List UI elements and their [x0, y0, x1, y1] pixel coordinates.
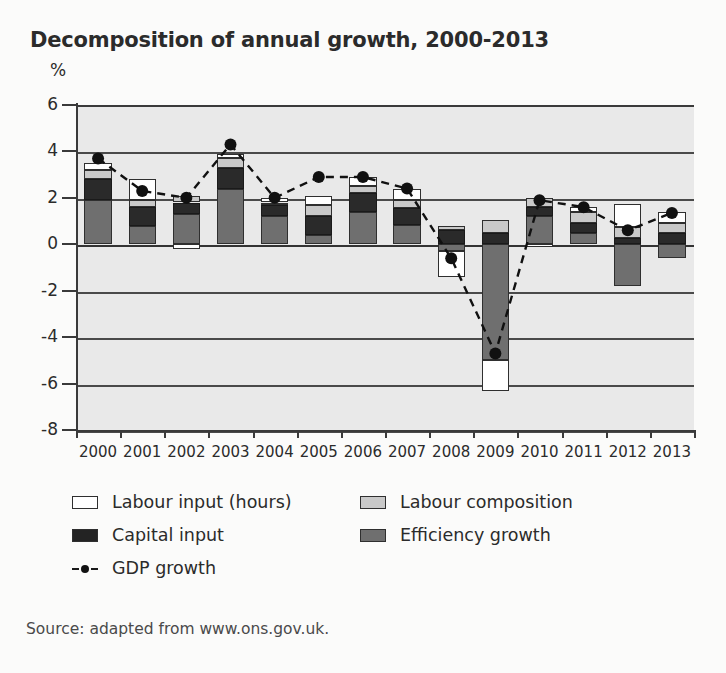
bar-segment-2013-labour-input-hours [658, 212, 685, 224]
bar-segment-2013-labour-composition [658, 223, 685, 232]
bar-segment-2003-labour-input-hours [217, 154, 244, 159]
bar-segment-2011-capital-input [570, 223, 597, 232]
x-tick-label-2004: 2004 [253, 443, 297, 461]
bar-segment-2012-capital-input [614, 238, 641, 244]
x-tick-label-2000: 2000 [76, 443, 120, 461]
chart-figure: Decomposition of annual growth, 2000-201… [0, 0, 726, 673]
bar-segment-2012-labour-composition [614, 227, 641, 239]
legend-item-efficiency-growth[interactable]: Efficiency growth [360, 525, 551, 545]
legend-item-capital-input[interactable]: Capital input [72, 525, 224, 545]
legend-label-capital-input: Capital input [112, 525, 224, 545]
bar-segment-2007-labour-input-hours [393, 189, 420, 201]
legend-label-labour-input-hours: Labour input (hours) [112, 492, 292, 512]
y-tick--8 [62, 429, 76, 431]
bar-segment-2004-efficiency-growth [261, 216, 288, 244]
bar-segment-2011-efficiency-growth [570, 233, 597, 245]
x-tick-label-2001: 2001 [120, 443, 164, 461]
bar-segment-2013-efficiency-growth [658, 244, 685, 258]
y-tick-4 [62, 150, 76, 152]
bar-segment-2003-efficiency-growth [217, 189, 244, 245]
y-tick-label-0: 0 [22, 233, 58, 253]
y-tick--2 [62, 290, 76, 292]
bar-segment-2005-labour-input-hours [305, 196, 332, 205]
bar-segment-2002-labour-composition [173, 196, 200, 203]
bar-segment-2005-labour-composition [305, 205, 332, 217]
x-tick-label-2008: 2008 [429, 443, 473, 461]
legend-row-1: Labour input (hours) Labour composition [72, 492, 692, 525]
x-tick-label-2011: 2011 [562, 443, 606, 461]
x-tick-2002 [164, 430, 166, 438]
x-tick-label-2005: 2005 [297, 443, 341, 461]
y-tick-label-6: 6 [22, 94, 58, 114]
source-note: Source: adapted from www.ons.gov.uk. [26, 620, 329, 638]
y-tick-label--6: -6 [22, 373, 58, 393]
x-tick-label-2003: 2003 [208, 443, 252, 461]
x-tick-2012 [606, 430, 608, 438]
bar-segment-2007-capital-input [393, 208, 420, 224]
bar-segment-2002-capital-input [173, 203, 200, 215]
y-tick--4 [62, 336, 76, 338]
x-tick-label-2009: 2009 [473, 443, 517, 461]
x-tick-2003 [208, 430, 210, 438]
bar-segment-2006-efficiency-growth [349, 212, 376, 245]
chart-legend: Labour input (hours) Labour composition … [72, 492, 692, 591]
bar-segment-2002-efficiency-growth [173, 214, 200, 244]
bar-segment-2007-efficiency-growth [393, 225, 420, 245]
bar-segment-2001-capital-input [129, 207, 156, 226]
y-tick-label-2: 2 [22, 187, 58, 207]
y-tick-label--4: -4 [22, 326, 58, 346]
bar-segment-2006-labour-input-hours [349, 177, 376, 186]
bar-segment-2009-labour-composition [482, 220, 509, 233]
legend-swatch-labour-composition [360, 496, 386, 509]
legend-item-labour-composition[interactable]: Labour composition [360, 492, 573, 512]
bar-segment-2009-capital-input [482, 233, 509, 245]
x-tick-2009 [473, 430, 475, 438]
bar-segment-2009-labour-input-hours [482, 360, 509, 390]
bar-segment-2011-labour-input-hours [570, 207, 597, 212]
bar-segment-2012-efficiency-growth [614, 244, 641, 286]
y-tick-2 [62, 197, 76, 199]
legend-swatch-labour-input-hours [72, 496, 98, 509]
legend-label-labour-composition: Labour composition [400, 492, 573, 512]
legend-item-labour-input-hours[interactable]: Labour input (hours) [72, 492, 292, 512]
bar-segment-2003-capital-input [217, 168, 244, 189]
bar-segment-2002-labour-input-hours [173, 244, 200, 249]
bar-segment-2010-labour-composition [526, 198, 553, 207]
y-axis-line [76, 103, 78, 432]
y-tick-label-4: 4 [22, 140, 58, 160]
x-tick-2008 [429, 430, 431, 438]
legend-swatch-gdp-growth-line-icon [72, 562, 98, 575]
bar-segment-2000-capital-input [84, 179, 111, 200]
bar-segment-2008-labour-composition [438, 226, 465, 231]
bar-segment-2004-labour-input-hours [261, 198, 288, 203]
bar-segment-2012-labour-input-hours [614, 204, 641, 227]
bar-segment-2005-efficiency-growth [305, 235, 332, 244]
bar-segment-2006-capital-input [349, 193, 376, 212]
x-tick-end [694, 430, 696, 438]
chart-title: Decomposition of annual growth, 2000-201… [30, 28, 549, 52]
bar-segment-2008-efficiency-growth [438, 244, 465, 251]
x-tick-2000 [76, 430, 78, 438]
bar-segment-2001-efficiency-growth [129, 226, 156, 245]
legend-row-2: Capital input Efficiency growth [72, 525, 692, 558]
legend-item-gdp-growth[interactable]: GDP growth [72, 558, 216, 578]
legend-row-3: GDP growth [72, 558, 692, 591]
bar-segment-2001-labour-input-hours [129, 179, 156, 200]
bar-segment-2000-labour-input-hours [84, 163, 111, 170]
legend-label-efficiency-growth: Efficiency growth [400, 525, 551, 545]
legend-swatch-capital-input [72, 529, 98, 542]
bar-segment-2004-capital-input [261, 205, 288, 217]
bar-segment-2013-capital-input [658, 233, 685, 245]
x-tick-label-2013: 2013 [650, 443, 694, 461]
x-tick-2013 [650, 430, 652, 438]
x-tick-2005 [297, 430, 299, 438]
x-tick-label-2002: 2002 [164, 443, 208, 461]
y-axis-unit-label: % [50, 60, 66, 80]
x-tick-2010 [517, 430, 519, 438]
x-tick-label-2010: 2010 [517, 443, 561, 461]
gridline--6 [76, 385, 694, 387]
bar-segment-2003-labour-composition [217, 158, 244, 167]
gridline-4 [76, 152, 694, 154]
bar-segment-2001-labour-composition [129, 200, 156, 207]
x-tick-2004 [253, 430, 255, 438]
